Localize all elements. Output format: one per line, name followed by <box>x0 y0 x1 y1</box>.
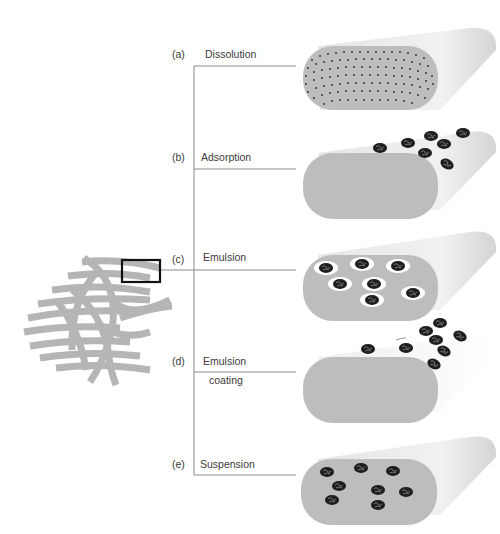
label-emulsion-coating-2: coating <box>209 374 243 386</box>
label-emulsion: Emulsion <box>203 251 246 263</box>
label-letter-c: (c) <box>172 253 184 265</box>
label-suspension: Suspension <box>200 458 255 470</box>
fiber-emulsion <box>303 231 496 321</box>
fiber-emulsion-coating <box>303 318 496 423</box>
label-letter-b: (b) <box>172 151 185 163</box>
fiber-adsorption <box>303 128 496 219</box>
label-dissolution: Dissolution <box>205 48 256 60</box>
label-emulsion-coating-1: Emulsion <box>203 355 246 367</box>
fiber-dissolution <box>303 28 496 110</box>
label-letter-a: (a) <box>172 48 185 60</box>
label-letter-d: (d) <box>172 355 185 367</box>
fiber-mat-illustration <box>24 258 172 385</box>
label-letter-e: (e) <box>172 458 185 470</box>
connector-lines <box>160 66 296 475</box>
fiber-suspension <box>301 436 496 525</box>
diagram-canvas <box>0 0 500 534</box>
label-adsorption: Adsorption <box>201 151 251 163</box>
